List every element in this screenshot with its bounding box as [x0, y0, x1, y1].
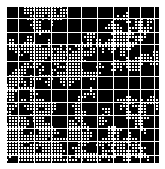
- maze-canvas: [6, 6, 159, 163]
- maze-pattern: [6, 6, 159, 163]
